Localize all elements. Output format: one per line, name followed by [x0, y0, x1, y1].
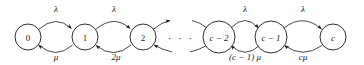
arc-birth-ellipsis-c2-stub: [192, 21, 208, 29]
state-label-0: 0: [26, 33, 31, 43]
state-label-1: 1: [83, 33, 88, 43]
state-label-c: c: [331, 33, 335, 43]
birth-rate-labels: λ λ λ λ: [53, 4, 305, 14]
markov-chain-diagram: 0 1 2 c − 2 c − 1 c · · · λ λ λ λ μ 2μ (…: [0, 0, 364, 65]
rate-label-lambda-0-1: λ: [53, 4, 58, 14]
state-label-c-2: c − 2: [209, 33, 229, 43]
arc-birth-0-1: [39, 21, 72, 29]
arc-birth-c1-c: [284, 21, 322, 29]
arc-death-c2-ellipsis-stub: [190, 45, 208, 52]
state-transition-diagram-canvas: 0 1 2 c − 2 c − 1 c · · · λ λ λ λ μ 2μ (…: [0, 0, 364, 65]
arc-birth-c2-c1: [231, 21, 259, 29]
arc-birth-2-ellipsis-stub: [153, 21, 170, 30]
rate-label-lambda-c1-c: λ: [300, 4, 305, 14]
rate-label-lambda-1-2: λ: [111, 4, 116, 14]
rate-label-c1mu-c1-c2: (c − 1) μ: [229, 52, 261, 62]
rate-label-2mu-2-1: 2μ: [111, 52, 121, 62]
rate-label-cmu-c-c1: cμ: [299, 52, 308, 62]
death-rate-labels: μ 2μ (c − 1) μ cμ: [53, 52, 308, 62]
rate-label-lambda-c2-c1: λ: [242, 4, 247, 14]
arc-death-ellipsis-2-stub: [154, 45, 172, 52]
arc-birth-1-2: [96, 21, 131, 29]
rate-label-mu-1-0: μ: [53, 52, 59, 62]
state-label-2: 2: [141, 33, 146, 43]
ellipsis-dots: · · ·: [168, 32, 195, 44]
state-label-c-1: c − 1: [261, 33, 280, 43]
